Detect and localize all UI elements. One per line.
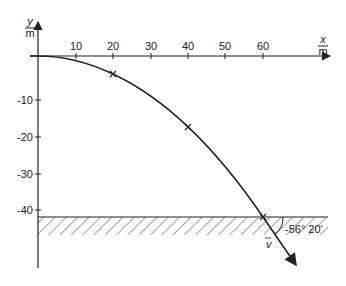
y-axis-label-den: m (25, 27, 34, 39)
x-tick-label: 10 (70, 40, 82, 52)
marked-points (110, 71, 266, 220)
x-tick-label: 60 (257, 40, 269, 52)
x-tick-label: 30 (145, 40, 157, 52)
y-tick-label: -40 (17, 204, 33, 216)
x-axis: 10 20 30 40 50 60 x m (30, 33, 330, 59)
trajectory-curve (30, 56, 263, 217)
x-axis-label-num: x (319, 33, 326, 45)
y-tick-label: -30 (17, 168, 33, 180)
y-axis-label-num: y (26, 15, 34, 27)
x-axis-label-den: m (318, 45, 327, 57)
y-axis: -10 -20 -30 -40 y m (17, 15, 41, 268)
y-tick-label: -10 (17, 94, 33, 106)
x-tick-label: 20 (107, 40, 119, 52)
angle-label: -56° 20' (285, 223, 323, 235)
trajectory-diagram: -10 -20 -30 -40 y m 10 20 30 40 50 60 x … (0, 0, 346, 286)
y-tick-label: -20 (17, 131, 33, 143)
velocity-label: v (266, 238, 273, 250)
x-tick-label: 50 (219, 40, 231, 52)
x-tick-label: 40 (182, 40, 194, 52)
